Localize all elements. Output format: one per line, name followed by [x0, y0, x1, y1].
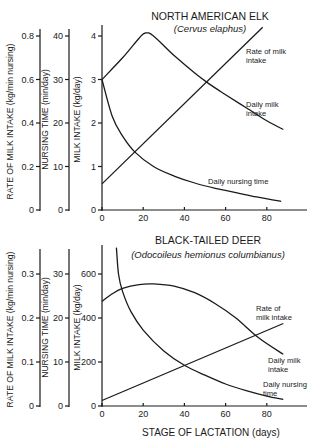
x-tick-label: 20	[138, 409, 148, 419]
series-annotation: intake	[268, 365, 288, 374]
y-tick-label: 1	[91, 162, 96, 172]
x-tick-label: 0	[99, 213, 104, 223]
series-daily-nursing-time	[116, 248, 283, 400]
series-annotation: Rate of	[256, 304, 281, 313]
y-tick-label: 3	[91, 75, 96, 85]
elk-panel: NORTH AMERICAN ELK (Cervus elaphus) 00.2…	[5, 10, 307, 223]
y-tick-label: 0.4	[21, 118, 34, 128]
y-axis-title: RATE OF MILK INTAKE (kg/min nursing)	[5, 43, 15, 199]
y-tick-label: 0	[91, 205, 96, 215]
y-tick-label: 400	[81, 313, 96, 323]
lactation-figure: NORTH AMERICAN ELK (Cervus elaphus) 00.2…	[0, 0, 325, 448]
y-tick-label: 4	[91, 31, 96, 41]
y-axis-title: NURSING TIME (min/day)	[40, 277, 50, 378]
x-tick-label: 60	[221, 409, 231, 419]
series-annotation: Daily nursing	[263, 380, 307, 389]
x-tick-label: 0	[99, 409, 104, 419]
y-tick-label: 200	[81, 357, 96, 367]
y-axis-title: NURSING TIME (min/day)	[40, 69, 50, 170]
deer-curves	[102, 248, 283, 401]
chart-canvas: NORTH AMERICAN ELK (Cervus elaphus) 00.2…	[0, 0, 325, 448]
elk-title: NORTH AMERICAN ELK	[151, 10, 269, 22]
y-tick-label: 0	[29, 205, 34, 215]
x-tick-label: 80	[262, 213, 272, 223]
y-tick-label: 10	[53, 357, 63, 367]
series-rate-of-milk-intake	[102, 324, 283, 401]
x-axis-title: STAGE OF LACTATION (days)	[142, 427, 280, 438]
y-tick-label: 0.1	[21, 357, 34, 367]
y-tick-label: 30	[53, 269, 63, 279]
deer-annotations: Rate ofmilk intakeDaily milkintakeDaily …	[256, 304, 307, 398]
y-tick-label: 0.3	[21, 269, 34, 279]
series-annotation: Daily nursing time	[208, 177, 268, 186]
x-tick-label: 40	[179, 213, 189, 223]
y-tick-label: 30	[53, 75, 63, 85]
y-tick-label: 20	[53, 118, 63, 128]
y-tick-label: 600	[81, 269, 96, 279]
series-annotation: intake	[246, 109, 266, 118]
x-tick-label: 40	[179, 409, 189, 419]
elk-subtitle: (Cervus elaphus)	[174, 23, 246, 34]
deer-title: BLACK-TAILED DEER	[155, 234, 261, 246]
y-tick-label: 0.8	[21, 31, 34, 41]
x-tick-label: 60	[221, 213, 231, 223]
y-tick-label: 0.6	[21, 75, 34, 85]
y-axis-title: MILK INTAKE (kg/day)	[72, 76, 82, 162]
series-annotation: Daily milk	[268, 356, 301, 365]
x-tick-label: 20	[138, 213, 148, 223]
y-tick-label: 0	[29, 401, 34, 411]
y-axis-title: MILK INTAKE (kg/day)	[72, 284, 82, 370]
deer-subtitle: (Odocoileus hemionus columbianus)	[131, 249, 285, 260]
series-annotation: Daily milk	[246, 100, 279, 109]
series-annotation: time	[263, 389, 277, 398]
y-tick-label: 20	[53, 313, 63, 323]
y-tick-label: 2	[91, 118, 96, 128]
y-tick-label: 10	[53, 162, 63, 172]
series-annotation: milk intake	[256, 313, 292, 322]
series-annotation: Rate of milk	[246, 47, 286, 56]
series-annotation: intake	[246, 56, 266, 65]
y-tick-label: 0	[91, 401, 96, 411]
y-axis-title: RATE OF MILK INTAKE (kg/min nursing)	[5, 251, 15, 407]
series-rate-of-milk-intake	[102, 27, 263, 184]
y-tick-label: 0.2	[21, 313, 34, 323]
y-tick-label: 0.2	[21, 162, 34, 172]
x-tick-label: 80	[262, 409, 272, 419]
y-tick-label: 40	[53, 31, 63, 41]
deer-panel: BLACK-TAILED DEER (Odocoileus hemionus c…	[5, 234, 307, 419]
elk-annotations: Rate of milkintakeDaily milkintakeDaily …	[208, 47, 286, 186]
y-tick-label: 0	[58, 401, 63, 411]
y-tick-label: 0	[58, 205, 63, 215]
